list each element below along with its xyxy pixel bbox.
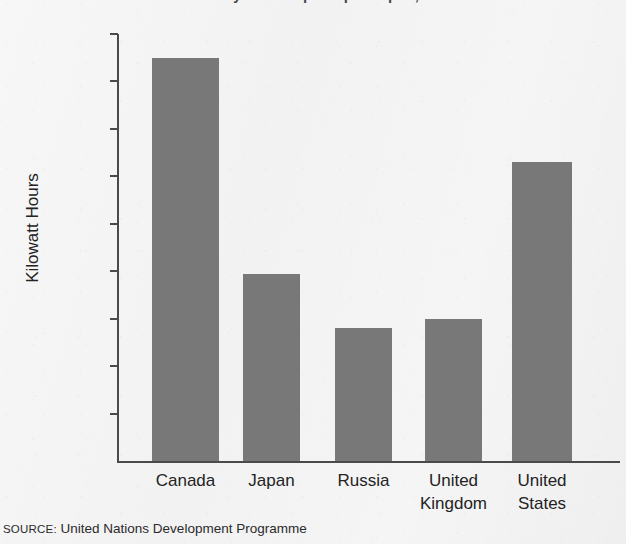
chart-title-clipped-region: Electricity consumption per capita, 2001: [0, 0, 626, 5]
bar: [425, 319, 482, 461]
y-axis-tick: [110, 365, 118, 367]
y-axis-tick: [110, 318, 118, 320]
bar: [512, 162, 572, 461]
y-axis-tick: [110, 80, 118, 82]
y-axis-tick: [110, 270, 118, 272]
y-axis-title: Kilowatt Hours: [23, 173, 43, 283]
bar: [152, 58, 219, 461]
y-axis-tick: [110, 128, 118, 130]
y-axis-tick: [110, 413, 118, 415]
category-label-line: States: [487, 492, 597, 515]
y-axis-line: [117, 34, 119, 461]
bar: [335, 328, 392, 461]
source-note: SOURCE: United Nations Development Progr…: [3, 521, 307, 536]
x-axis-line: [117, 461, 620, 463]
category-label-line: United: [487, 469, 597, 492]
source-text: United Nations Development Programme: [61, 521, 307, 536]
chart-title: Electricity consumption per capita, 2001: [0, 0, 626, 3]
y-axis-tick: [110, 33, 118, 35]
bar: [243, 274, 300, 461]
y-axis-tick: [110, 175, 118, 177]
y-axis-tick: [110, 223, 118, 225]
plot-area: 2,0004,0006,0008,00010,00012,00014,00016…: [117, 34, 620, 461]
x-axis-category-label: UnitedStates: [487, 469, 597, 515]
source-keyword: SOURCE:: [3, 523, 57, 535]
